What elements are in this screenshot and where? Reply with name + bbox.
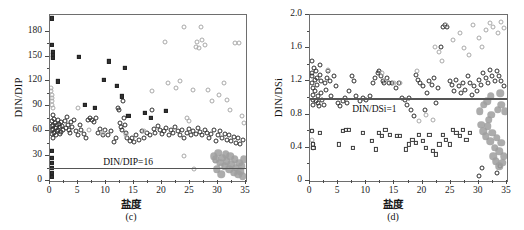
y-minor-tick	[47, 168, 50, 169]
data-point	[483, 27, 488, 32]
data-point	[499, 159, 507, 167]
y-tick	[305, 14, 309, 15]
data-point	[181, 154, 186, 159]
x-tick-label: 20	[156, 186, 166, 196]
data-point	[465, 74, 470, 79]
data-point	[380, 134, 384, 138]
reference-line-label: DIN/DIP=16	[103, 157, 153, 167]
y-tick-label: 1.2	[262, 76, 302, 86]
data-point	[143, 111, 147, 115]
data-point	[123, 132, 128, 137]
data-point	[454, 77, 459, 82]
panel-c-plot-area: DIN/DIP=16	[49, 14, 247, 182]
data-point	[444, 137, 448, 141]
data-point	[463, 87, 468, 92]
data-point	[72, 117, 77, 122]
data-point	[87, 127, 92, 132]
y-tick-label: 0	[262, 175, 302, 185]
data-point	[116, 107, 121, 112]
data-point	[468, 131, 472, 135]
data-point	[147, 133, 152, 138]
x-tick	[217, 180, 218, 184]
data-point	[485, 81, 490, 86]
data-point	[109, 129, 114, 134]
data-point	[431, 76, 436, 81]
x-minor-tick	[175, 180, 176, 183]
x-tick	[133, 180, 134, 184]
data-point	[120, 94, 124, 98]
x-tick	[309, 180, 310, 184]
x-minor-tick	[436, 180, 437, 183]
data-point	[50, 105, 55, 110]
y-minor-tick	[307, 130, 310, 131]
data-point	[496, 89, 504, 97]
x-minor-tick	[63, 180, 64, 183]
y-minor-tick	[47, 118, 50, 119]
panel-d: DIN/DSi=1 DIN/DSi 盐度 (d) 00.40.81.21.62.…	[262, 0, 524, 230]
data-point	[495, 31, 500, 36]
x-minor-tick	[379, 180, 380, 183]
data-point	[217, 92, 222, 97]
y-tick-label: 150	[0, 51, 42, 61]
data-point	[407, 142, 411, 146]
data-point	[452, 89, 457, 94]
data-point	[323, 87, 328, 92]
data-point	[374, 147, 378, 151]
x-minor-tick	[119, 180, 120, 183]
data-point	[437, 142, 441, 146]
x-tick-label: 30	[212, 186, 222, 196]
data-point	[449, 82, 454, 87]
data-point	[347, 127, 351, 131]
data-point	[477, 174, 482, 179]
x-tick-label: 10	[361, 186, 371, 196]
data-point	[492, 79, 497, 84]
data-point	[441, 132, 445, 136]
data-point	[163, 39, 168, 44]
data-point	[83, 103, 87, 107]
data-point	[126, 114, 130, 118]
data-point	[491, 24, 496, 29]
data-point	[190, 87, 195, 92]
data-point	[361, 131, 365, 135]
x-tick-label: 30	[473, 186, 483, 196]
data-point	[50, 161, 54, 165]
x-tick	[450, 180, 451, 184]
data-point	[318, 131, 322, 135]
data-point	[501, 26, 506, 31]
data-point	[432, 44, 437, 49]
data-point	[461, 81, 466, 86]
data-point	[411, 114, 416, 119]
data-point	[76, 54, 80, 58]
data-point	[224, 97, 229, 102]
data-point	[51, 56, 55, 60]
x-tick-label: 0	[47, 186, 52, 196]
data-point	[370, 139, 374, 143]
data-point	[114, 135, 119, 140]
data-point	[383, 79, 388, 84]
data-point	[417, 132, 421, 136]
x-tick-label: 0	[307, 186, 312, 196]
data-point	[76, 105, 81, 110]
data-point	[398, 81, 403, 86]
reference-line-label: DIN/DSi=1	[352, 104, 396, 114]
data-point	[83, 135, 88, 140]
y-minor-tick	[47, 143, 50, 144]
y-tick-label: 30	[0, 150, 42, 160]
y-minor-tick	[47, 93, 50, 94]
x-tick-label: 25	[445, 186, 455, 196]
data-point	[450, 37, 455, 42]
data-point	[149, 107, 154, 112]
data-point	[50, 156, 54, 160]
x-tick	[506, 180, 507, 184]
x-minor-tick	[231, 180, 232, 183]
y-tick	[45, 130, 49, 131]
data-point	[50, 43, 54, 47]
panel-d-plot-area: DIN/DSi=1	[309, 14, 508, 182]
data-point	[444, 22, 449, 27]
y-tick	[45, 80, 49, 81]
data-point	[457, 31, 462, 36]
data-point	[93, 106, 97, 110]
data-point	[321, 102, 326, 107]
y-tick-label: 180	[0, 26, 42, 36]
data-point	[424, 146, 428, 150]
